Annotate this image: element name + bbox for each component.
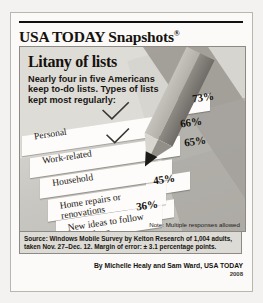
infographic-chart: Litany of lists Nearly four in five Amer… [19, 46, 246, 232]
subtitle: Nearly four in five Americans keep to-do… [28, 74, 170, 105]
snapshot-page: USA TODAY Snapshots® Litany of lists Nea… [0, 0, 263, 303]
masthead-title: USA TODAY Snapshots® [19, 25, 245, 45]
masthead-brand: USA TODAY Snapshots [19, 28, 174, 45]
chart-note: Note: Multiple responses allowed [149, 221, 240, 228]
byline-year: 2008 [43, 270, 243, 278]
page-title: Litany of lists [28, 53, 178, 71]
headline-block: Litany of lists Nearly four in five Amer… [28, 53, 178, 105]
byline-credit: By Michelle Healy and Sam Ward, USA TODA… [43, 262, 243, 270]
byline: By Michelle Healy and Sam Ward, USA TODA… [43, 262, 243, 278]
source-text: Source: Windows Mobile Survey by Kelton … [24, 235, 237, 250]
registered-mark-icon: ® [174, 29, 180, 38]
masthead: USA TODAY Snapshots® [19, 21, 245, 45]
source-box: Source: Windows Mobile Survey by Kelton … [19, 231, 242, 254]
masthead-rule [19, 21, 243, 23]
